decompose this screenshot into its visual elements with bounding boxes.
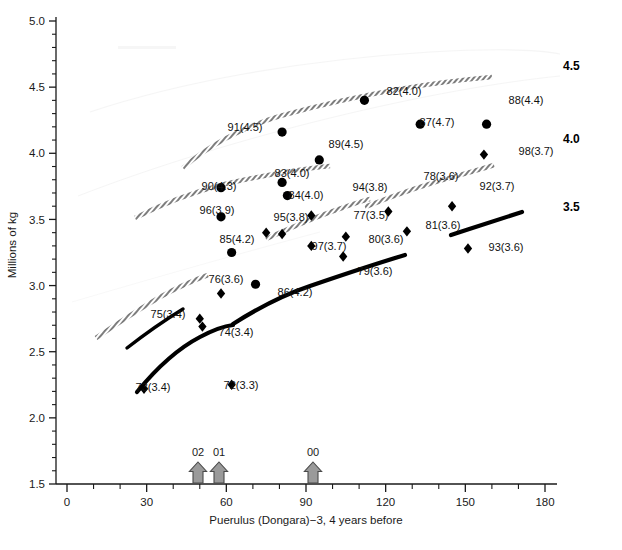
data-point-label: 91(4.5) (228, 121, 263, 133)
data-point-marker-circle (278, 128, 287, 137)
data-point-label: 90(4.3) (202, 180, 237, 192)
year-arrow-label-02: 02 (192, 446, 204, 458)
x-tick-label: 180 (535, 496, 554, 508)
year-arrow-label-01: 01 (213, 446, 225, 458)
data-point-label: 92(3.7) (480, 180, 515, 192)
chart-figure: 1.52.02.53.03.54.04.55.00306090120150180… (0, 0, 622, 550)
data-point-label: 78(3.6) (424, 170, 459, 182)
scatter-plot-svg: 1.52.02.53.03.54.04.55.00306090120150180… (0, 0, 622, 550)
year-arrow-label-00: 00 (307, 446, 319, 458)
data-point-label: 95(3.8) (274, 211, 309, 223)
data-point-label: 81(3.6) (426, 219, 461, 231)
x-tick-label: 120 (376, 496, 395, 508)
data-point-marker-circle (227, 248, 236, 257)
data-point-label: 85(4.2) (220, 233, 255, 245)
y-axis-title: Millions of kg (6, 212, 18, 278)
x-tick-label: 150 (456, 496, 475, 508)
data-point-marker-circle (315, 155, 324, 164)
data-point-marker-circle (278, 178, 287, 187)
y-tick-label: 4.0 (29, 147, 45, 159)
data-point-label: 82(4.0) (387, 85, 422, 97)
data-point-marker-circle (360, 96, 369, 105)
data-point-label: 89(4.5) (329, 138, 364, 150)
y-tick-label: 1.5 (29, 478, 45, 490)
x-axis-title: Puerulus (Dongara)−3, 4 years before (209, 514, 402, 526)
y-tick-label: 4.5 (29, 81, 45, 93)
data-point-marker-circle (482, 120, 491, 129)
data-point-label: 87(4.7) (420, 116, 455, 128)
y-tick-label: 3.0 (29, 280, 45, 292)
y-tick-label: 2.5 (29, 346, 45, 358)
data-point-label: 97(3.7) (312, 240, 347, 252)
data-point-label: 86(4.2) (278, 286, 313, 298)
curve-label-3.5: 3.5 (563, 200, 580, 214)
data-point-label: 93(3.6) (489, 241, 524, 253)
y-tick-label: 3.5 (29, 214, 45, 226)
data-point-label: 73(3.4) (136, 381, 171, 393)
data-point-label: 80(3.6) (369, 233, 404, 245)
x-tick-label: 60 (220, 496, 233, 508)
data-point-marker-circle (251, 280, 260, 289)
x-tick-label: 30 (140, 496, 153, 508)
data-point-label: 72(3.3) (224, 379, 259, 391)
curve-label-4.0: 4.0 (563, 132, 580, 146)
x-tick-label: 90 (300, 496, 313, 508)
data-point-label: 83(4.0) (275, 167, 310, 179)
data-point-label: 76(3.6) (209, 273, 244, 285)
data-point-label: 94(3.8) (353, 181, 388, 193)
data-point-label: 75(3.4) (151, 308, 186, 320)
y-tick-label: 5.0 (29, 15, 45, 27)
data-point-label: 96(3.9) (200, 204, 235, 216)
data-point-label: 84(4.0) (289, 189, 324, 201)
data-point-label: 98(3.7) (519, 145, 554, 157)
y-tick-label: 2.0 (29, 412, 45, 424)
data-point-label: 74(3.4) (219, 326, 254, 338)
data-point-label: 77(3.5) (354, 209, 389, 221)
data-point-label: 79(3.6) (358, 265, 393, 277)
data-point-label: 88(4.4) (509, 94, 544, 106)
x-tick-label: 0 (64, 496, 70, 508)
curve-label-4.5: 4.5 (563, 59, 580, 73)
